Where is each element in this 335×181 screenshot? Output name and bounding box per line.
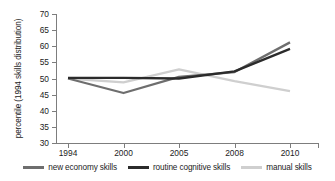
y-tick-mark [52, 46, 56, 47]
legend-item-1[interactable]: routine cognitive skills [128, 163, 230, 172]
x-tick-label: 2005 [159, 149, 199, 158]
y-tick-label: 35 [31, 123, 49, 131]
y-tick-label: 40 [31, 107, 49, 115]
line-chart-figure: percentile (1994 skills distribution) 70… [0, 0, 335, 181]
legend-label: routine cognitive skills [153, 163, 230, 172]
legend-label: manual skills [266, 163, 312, 172]
x-axis-line [56, 143, 319, 144]
x-tick-label: 1994 [48, 149, 88, 158]
y-tick-label: 55 [31, 58, 49, 66]
legend-label: new economy skills [48, 163, 117, 172]
y-axis-title: percentile (1994 skills distribution) [14, 9, 23, 149]
legend-item-2[interactable]: manual skills [241, 163, 312, 172]
y-tick-mark [52, 111, 56, 112]
legend-line-swatch-icon [241, 166, 262, 169]
chart-legend: new economy skillsroutine cognitive skil… [0, 163, 335, 172]
series-line-manual-skills [68, 69, 290, 91]
y-tick-mark [52, 79, 56, 80]
x-tick-label: 2010 [270, 149, 310, 158]
y-tick-mark [52, 30, 56, 31]
y-tick-label: 65 [31, 26, 49, 34]
series-line-routine-cognitive-skills [68, 49, 290, 79]
x-tick-label: 2000 [104, 149, 144, 158]
legend-line-swatch-icon [23, 166, 44, 169]
legend-line-swatch-icon [128, 166, 149, 169]
y-tick-label: 50 [31, 75, 49, 83]
y-tick-mark [52, 95, 56, 96]
y-tick-label: 45 [31, 91, 49, 99]
y-tick-mark [52, 14, 56, 15]
y-tick-mark [52, 62, 56, 63]
y-tick-label: 70 [31, 10, 49, 18]
y-tick-mark [52, 127, 56, 128]
x-tick-mark-end [318, 144, 319, 148]
legend-item-0[interactable]: new economy skills [23, 163, 117, 172]
x-tick-label: 2008 [215, 149, 255, 158]
y-tick-label: 60 [31, 42, 49, 50]
y-axis-line [56, 14, 57, 144]
y-tick-mark [52, 143, 56, 144]
series-line-new-economy-skills [68, 42, 290, 93]
y-tick-label: 30 [31, 139, 49, 147]
